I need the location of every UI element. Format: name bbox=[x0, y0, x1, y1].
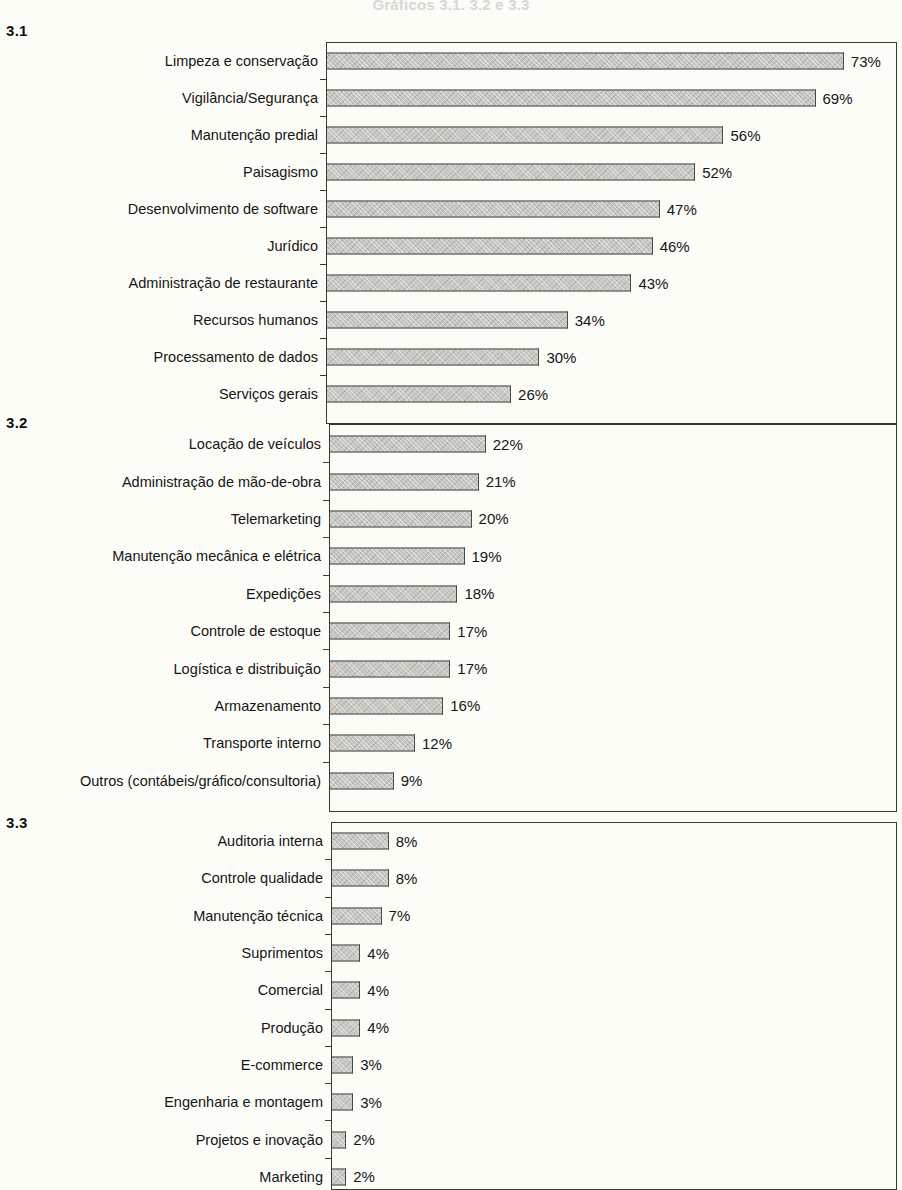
bar: 12% bbox=[330, 735, 415, 752]
bar: 9% bbox=[330, 772, 394, 789]
bar-value-label: 2% bbox=[353, 1169, 375, 1184]
category-label: Auditoria interna bbox=[217, 834, 323, 849]
category-label: Projetos e inovação bbox=[196, 1132, 323, 1147]
category-label: Manutenção mecânica e elétrica bbox=[112, 549, 321, 564]
category-label: Locação de veículos bbox=[189, 437, 321, 452]
axis-tick bbox=[320, 116, 327, 117]
axis-tick bbox=[323, 537, 330, 538]
panel-tag-3-3: 3.3 bbox=[6, 814, 28, 831]
axis-tick bbox=[320, 190, 327, 191]
bar-row: Suprimentos4% bbox=[332, 939, 896, 967]
bar-row: Logística e distribuição17% bbox=[330, 654, 896, 682]
axis-tick bbox=[320, 338, 327, 339]
bar: 30% bbox=[327, 349, 539, 366]
bar-rows-3-2: Locação de veículos22%Administração de m… bbox=[330, 425, 896, 811]
category-label: Processamento de dados bbox=[154, 350, 318, 365]
bar: 16% bbox=[330, 697, 443, 714]
bar-row: Expedições18% bbox=[330, 580, 896, 608]
category-label: Marketing bbox=[259, 1170, 323, 1185]
bar-row: Serviços gerais26% bbox=[327, 380, 896, 408]
bar-value-label: 4% bbox=[367, 1020, 389, 1035]
plot-frame-3-2: Locação de veículos22%Administração de m… bbox=[329, 424, 897, 812]
bar-row: Outros (contábeis/gráfico/consultoria)9% bbox=[330, 767, 896, 795]
category-label: Serviços gerais bbox=[219, 387, 318, 402]
category-label: Armazenamento bbox=[215, 699, 321, 714]
panel-tag-3-1: 3.1 bbox=[6, 22, 28, 39]
category-label: Engenharia e montagem bbox=[164, 1095, 323, 1110]
bar-row: Armazenamento16% bbox=[330, 692, 896, 720]
bar: 69% bbox=[327, 90, 816, 107]
chart-panel-3-2: 3.2 Locação de veículos22%Administração … bbox=[0, 414, 902, 818]
bar-value-label: 73% bbox=[851, 54, 881, 69]
bar-value-label: 18% bbox=[464, 586, 494, 601]
bar-value-label: 17% bbox=[457, 624, 487, 639]
bar: 73% bbox=[327, 53, 844, 70]
category-label: Manutenção técnica bbox=[193, 908, 323, 923]
bar-row: Locação de veículos22% bbox=[330, 430, 896, 458]
bar: 22% bbox=[330, 436, 486, 453]
category-label: Recursos humanos bbox=[193, 313, 318, 328]
bar-row: Comercial4% bbox=[332, 976, 896, 1004]
bar: 8% bbox=[332, 833, 389, 850]
axis-tick bbox=[325, 1083, 332, 1084]
axis-tick bbox=[320, 227, 327, 228]
category-label: Transporte interno bbox=[203, 736, 321, 751]
category-label: Paisagismo bbox=[243, 165, 318, 180]
bar: 3% bbox=[332, 1056, 353, 1073]
bar: 17% bbox=[330, 660, 450, 677]
bar-value-label: 20% bbox=[479, 511, 509, 526]
bar-value-label: 43% bbox=[638, 276, 668, 291]
axis-tick bbox=[323, 462, 330, 463]
axis-tick bbox=[320, 301, 327, 302]
chart-panel-3-1: 3.1 Limpeza e conservação73%Vigilância/S… bbox=[0, 22, 902, 430]
bar-row: E-commerce3% bbox=[332, 1051, 896, 1079]
bar-value-label: 34% bbox=[575, 313, 605, 328]
bar: 56% bbox=[327, 127, 723, 144]
plot-frame-3-3: Auditoria interna8%Controle qualidade8%M… bbox=[331, 822, 897, 1190]
bar-value-label: 7% bbox=[389, 908, 411, 923]
axis-tick bbox=[323, 762, 330, 763]
bar-row: Auditoria interna8% bbox=[332, 827, 896, 855]
category-label: Desenvolvimento de software bbox=[128, 202, 318, 217]
category-label: Jurídico bbox=[267, 239, 318, 254]
bar: 17% bbox=[330, 623, 450, 640]
category-label: Logística e distribuição bbox=[174, 661, 322, 676]
bar-value-label: 69% bbox=[823, 91, 853, 106]
bar: 21% bbox=[330, 473, 479, 490]
axis-tick bbox=[320, 264, 327, 265]
bar: 4% bbox=[332, 1019, 360, 1036]
bar: 47% bbox=[327, 201, 660, 218]
category-label: Administração de mão-de-obra bbox=[122, 474, 321, 489]
bar-value-label: 30% bbox=[546, 350, 576, 365]
bar: 3% bbox=[332, 1094, 353, 1111]
bar-row: Recursos humanos34% bbox=[327, 306, 896, 334]
bar-rows-3-3: Auditoria interna8%Controle qualidade8%M… bbox=[332, 823, 896, 1189]
axis-tick bbox=[325, 1046, 332, 1047]
category-label: Telemarketing bbox=[231, 512, 321, 527]
bar-value-label: 19% bbox=[472, 549, 502, 564]
bar-value-label: 3% bbox=[360, 1057, 382, 1072]
bar-row: Desenvolvimento de software47% bbox=[327, 195, 896, 223]
bar-value-label: 17% bbox=[457, 661, 487, 676]
axis-tick bbox=[323, 500, 330, 501]
axis-tick bbox=[325, 1009, 332, 1010]
category-label: Expedições bbox=[246, 587, 321, 602]
bar-value-label: 52% bbox=[702, 165, 732, 180]
bar-rows-3-1: Limpeza e conservação73%Vigilância/Segur… bbox=[327, 43, 896, 423]
axis-tick bbox=[323, 575, 330, 576]
category-label: Administração de restaurante bbox=[129, 276, 318, 291]
axis-tick bbox=[320, 153, 327, 154]
bar-value-label: 56% bbox=[730, 128, 760, 143]
bar-row: Manutenção técnica7% bbox=[332, 902, 896, 930]
bar-row: Marketing2% bbox=[332, 1163, 896, 1190]
category-label: Limpeza e conservação bbox=[165, 54, 318, 69]
panel-tag-3-2: 3.2 bbox=[6, 414, 28, 431]
axis-tick bbox=[323, 649, 330, 650]
bar-value-label: 8% bbox=[396, 834, 418, 849]
bar-value-label: 3% bbox=[360, 1095, 382, 1110]
bar-row: Administração de mão-de-obra21% bbox=[330, 467, 896, 495]
axis-tick bbox=[323, 612, 330, 613]
bar-value-label: 21% bbox=[486, 474, 516, 489]
bar-row: Controle qualidade8% bbox=[332, 864, 896, 892]
bar-row: Produção4% bbox=[332, 1014, 896, 1042]
